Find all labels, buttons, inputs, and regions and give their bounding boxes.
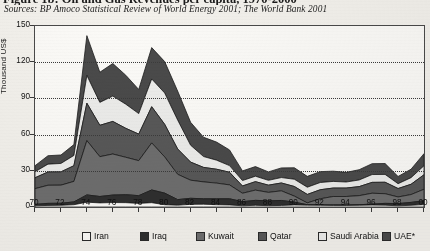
y-axis-tick-label: 60 [6,130,30,138]
legend-label: Iraq [152,232,167,241]
legend-item-kuwait[interactable]: Kuwait [196,232,234,241]
x-axis-tick-label: 86 [233,198,249,207]
x-axis-tick-label: 94 [337,198,353,207]
chart-plot-area: Thousand US$ 0306090120150 [0,16,430,212]
x-axis-tick-labels: 70727476788082848688909294969800 [0,198,430,210]
chart-legend: IranIraqKuwaitQatarSaudi ArabiaUAE* [0,232,430,246]
x-axis-tick-label: 92 [311,198,327,207]
x-axis-tick-label: 88 [259,198,275,207]
x-axis-tick-label: 78 [130,198,146,207]
y-axis-tick-label: 120 [6,57,30,65]
gridline [35,135,424,136]
x-axis-tick-label: 74 [78,198,94,207]
legend-label: Kuwait [208,232,234,241]
gridline [35,171,424,172]
legend-label: UAE* [394,232,415,241]
legend-item-saudi-arabia[interactable]: Saudi Arabia [318,232,379,241]
legend-swatch-icon [258,232,267,241]
y-axis-tick-label: 90 [6,93,30,101]
stacked-area-series [35,26,424,207]
legend-item-uae[interactable]: UAE* [382,232,415,241]
legend-item-iraq[interactable]: Iraq [140,232,167,241]
x-axis-tick-label: 70 [26,198,42,207]
gridline [35,62,424,63]
legend-label: Saudi Arabia [330,232,379,241]
gridline [35,98,424,99]
legend-label: Qatar [270,232,292,241]
x-axis-tick-label: 00 [415,198,430,207]
x-axis-tick-label: 80 [156,198,172,207]
legend-item-qatar[interactable]: Qatar [258,232,292,241]
legend-swatch-icon [318,232,327,241]
legend-swatch-icon [382,232,391,241]
y-axis-tick-labels: 0306090120150 [4,16,30,212]
x-axis-tick-label: 76 [104,198,120,207]
y-axis-tick-label: 150 [6,21,30,29]
x-axis-tick-label: 98 [389,198,405,207]
x-axis-tick-label: 90 [285,198,301,207]
legend-item-iran[interactable]: Iran [82,232,109,241]
x-axis-tick-label: 72 [52,198,68,207]
x-axis-tick-label: 84 [208,198,224,207]
x-axis-tick-label: 82 [182,198,198,207]
legend-swatch-icon [140,232,149,241]
figure-sources: Sources: BP Amoco Statistical Review of … [4,4,327,14]
legend-label: Iran [94,232,109,241]
chart-frame [34,25,425,208]
x-axis-tick-label: 96 [363,198,379,207]
legend-swatch-icon [82,232,91,241]
legend-swatch-icon [196,232,205,241]
y-axis-tick-label: 30 [6,166,30,174]
